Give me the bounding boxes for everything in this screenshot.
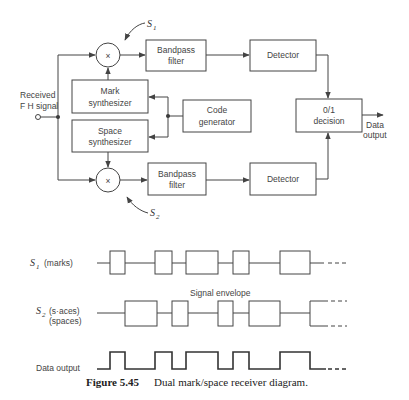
dual-mark-space-receiver-figure: Received F H signal × S 1 Bandpass filte… (0, 0, 409, 400)
s2-annotation: S 2 (127, 197, 160, 221)
multiplier-symbol: × (106, 176, 111, 186)
code-gen-label-2: generator (199, 117, 236, 127)
bandpass-bottom-label-1: Bandpass (158, 169, 196, 179)
multiplier-symbol: × (106, 51, 111, 61)
signal-envelope-label: Signal envelope (190, 288, 251, 298)
code-gen-label-1: Code (207, 105, 228, 115)
figure-caption: Figure 5.45 Dual mark/space receiver dia… (86, 376, 308, 388)
s1-symbol: S (147, 18, 152, 29)
s1-wave-label: (marks) (44, 258, 73, 268)
detector-top: Detector (250, 40, 316, 71)
s2-spaces-waveform: S 2 (s·aces) (spaces) (36, 301, 347, 326)
waveforms: S 1 (marks) Signal envelope S 2 (s·aces)… (30, 251, 348, 373)
decision-label-2: decision (313, 116, 344, 126)
bandpass-bottom-label-2: filter (169, 180, 185, 190)
data-output-waveform: Data output (36, 352, 348, 373)
output-label-1: Data (366, 120, 384, 130)
output-label-2: output (363, 130, 387, 140)
s2-subscript: 2 (156, 213, 160, 221)
code-generator: Code generator (183, 100, 251, 132)
mark-synth-label-1: Mark (101, 86, 121, 96)
s1-wave-symbol: S (30, 257, 35, 268)
s2-wave-label-1: (s·aces) (49, 306, 80, 316)
s1-wave-sub: 1 (36, 263, 40, 271)
mark-synthesizer: Mark synthesizer (72, 80, 148, 113)
data-output-label: Data output (36, 363, 81, 373)
space-synthesizer: Space synthesizer (72, 120, 148, 152)
s2-wave-sub: 2 (42, 311, 46, 319)
bandpass-top-label-2: filter (168, 56, 184, 66)
s2-wave-label-2: (spaces) (49, 316, 82, 326)
figure-number: Figure 5.45 (86, 376, 139, 388)
detector-bottom-label: Detector (267, 174, 299, 184)
s1-annotation: S 1 (125, 18, 157, 40)
bandpass-top-label-1: Bandpass (157, 45, 195, 55)
mark-synth-label-2: synthesizer (89, 98, 132, 108)
curved-arrow-icon (127, 197, 148, 213)
mixer-bottom: × (96, 168, 120, 192)
curved-arrow-icon (125, 23, 145, 40)
input-label-line1: Received (20, 90, 56, 100)
block-diagram: Received F H signal × S 1 Bandpass filte… (20, 18, 387, 221)
detector-top-label: Detector (267, 50, 299, 60)
decision-block: 0/1 decision (296, 99, 362, 132)
s1-subscript: 1 (153, 24, 157, 32)
s1-marks-waveform: S 1 (marks) (30, 251, 348, 274)
space-synth-label-1: Space (98, 126, 122, 136)
bandpass-filter-bottom: Bandpass filter (148, 163, 206, 195)
bandpass-filter-top: Bandpass filter (146, 40, 206, 71)
s2-wave-symbol: S (36, 305, 41, 316)
detector-bottom: Detector (250, 163, 316, 195)
space-synth-label-2: synthesizer (89, 137, 132, 147)
decision-label-1: 0/1 (323, 105, 335, 115)
input-label-line2: F H signal (20, 101, 58, 111)
input-terminal: Received F H signal (20, 90, 60, 120)
input-terminal-icon (36, 115, 41, 120)
s2-symbol: S (150, 207, 155, 218)
mixer-top: × (96, 43, 120, 67)
figure-caption-text: Dual mark/space receiver diagram. (154, 376, 308, 388)
